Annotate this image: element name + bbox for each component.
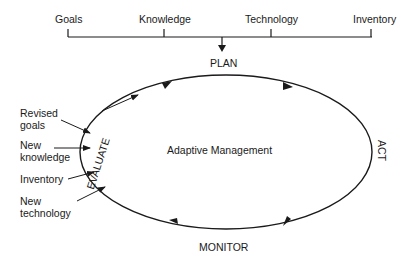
input-inventory: Inventory [353,13,396,25]
label-line: goals [20,119,58,131]
label-new-technology: New technology [20,195,71,219]
label-line: technology [20,207,71,219]
diagram-canvas [0,0,415,259]
input-knowledge: Knowledge [139,13,191,25]
input-technology: Technology [245,13,298,25]
plan-arrow-icon [218,45,226,52]
label-inventory: Inventory [20,173,63,185]
label-revised-goals: Revised goals [20,107,58,131]
label-line: New [20,139,70,151]
stage-act: ACT [376,140,388,161]
stage-plan: PLAN [210,57,237,69]
label-line: Inventory [20,173,63,185]
feedback-arrow [102,95,138,111]
center-label: Adaptive Management [167,144,272,156]
stage-monitor: MONITOR [199,241,248,253]
input-goals: Goals [55,13,82,25]
label-new-knowledge: New knowledge [20,139,70,163]
label-line: knowledge [20,151,70,163]
revised-goals-arrow [61,120,90,133]
label-line: Revised [20,107,58,119]
label-line: New [20,195,71,207]
